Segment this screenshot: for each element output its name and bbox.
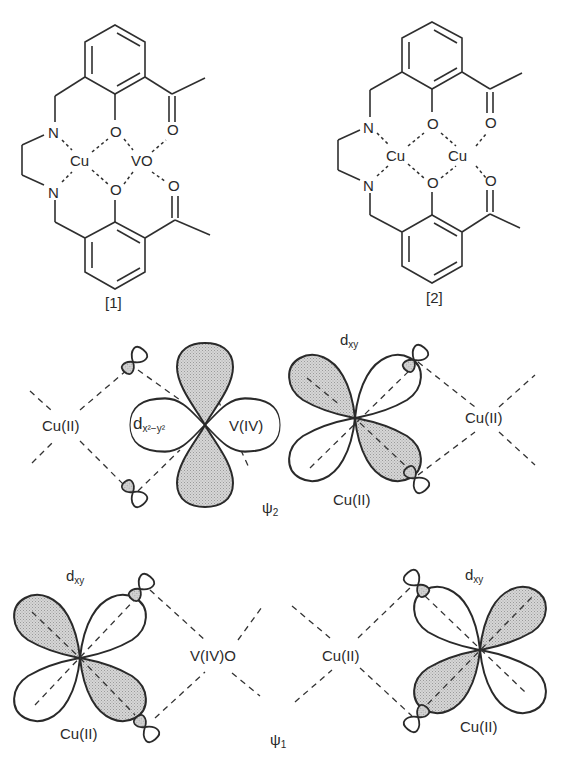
psi2-cu-orbital-label: dxy: [340, 332, 358, 350]
structure-2-label: [2]: [426, 290, 443, 305]
structure-1-label: [1]: [105, 295, 122, 310]
psi1-vo-label: V(IV)O: [190, 648, 236, 663]
psi2-right-cu-label: Cu(II): [465, 410, 503, 425]
atom-n-top-2: N: [363, 120, 374, 135]
orbital-subscript: x²−y²: [142, 423, 165, 434]
psi-subscript: 1: [281, 739, 287, 750]
psi1-right-metal-label: Cu(II): [460, 719, 498, 734]
structure-1: [22, 25, 210, 289]
psi-symbol: ψ: [270, 731, 281, 748]
atom-o-phenol-bottom-2: O: [427, 175, 439, 190]
atom-o-acetyl-top-1: O: [167, 122, 179, 137]
atom-n-top-1: N: [48, 125, 59, 140]
psi2-v-metal-label: V(IV): [229, 418, 263, 433]
psi1-left-metal-label: Cu(II): [60, 726, 98, 741]
atom-o-acetyl-bottom-2: O: [485, 173, 497, 188]
atom-n-bottom-1: N: [48, 185, 59, 200]
atom-o-phenol-bottom-1: O: [110, 182, 122, 197]
psi2-diagram: [30, 343, 535, 510]
orbital-subscript: xy: [348, 339, 358, 350]
orbital-subscript: xy: [473, 574, 483, 585]
psi-symbol: ψ: [262, 499, 273, 516]
psi2-label: ψ2: [262, 500, 278, 518]
atom-cu-1: Cu: [70, 153, 89, 168]
atom-o-phenol-top-1: O: [110, 124, 122, 139]
atom-cu-right-2: Cu: [448, 148, 467, 163]
psi-subscript: 2: [273, 507, 279, 518]
atom-o-acetyl-bottom-1: O: [168, 178, 180, 193]
psi2-cu-metal-label: Cu(II): [333, 492, 371, 507]
psi1-right-orbital-label: dxy: [465, 567, 483, 585]
atom-cu-left-2: Cu: [386, 148, 405, 163]
atom-vo-1: VO: [131, 153, 153, 168]
psi1-label: ψ1: [270, 732, 286, 750]
psi1-middle-cu-label: Cu(II): [322, 648, 360, 663]
orbital-subscript: xy: [74, 575, 84, 586]
psi1-left-orbital-label: dxy: [66, 568, 84, 586]
psi2-left-cu-label: Cu(II): [42, 418, 80, 433]
psi2-v-orbital-label: dx²−y²: [133, 415, 165, 434]
structure-2: [338, 22, 522, 283]
figure-canvas: [0, 0, 565, 766]
atom-o-acetyl-top-2: O: [485, 115, 497, 130]
atom-o-phenol-top-2: O: [427, 116, 439, 131]
atom-n-bottom-2: N: [363, 178, 374, 193]
